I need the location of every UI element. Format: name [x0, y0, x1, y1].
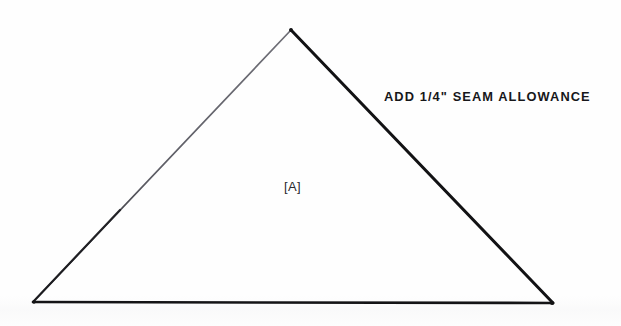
- pattern-piece-label: [A]: [0, 180, 585, 193]
- pattern-diagram-page: ADD 1/4" SEAM ALLOWANCE [A]: [0, 0, 621, 326]
- seam-allowance-note: ADD 1/4" SEAM ALLOWANCE: [384, 90, 591, 104]
- annotation-layer: ADD 1/4" SEAM ALLOWANCE [A]: [0, 0, 621, 326]
